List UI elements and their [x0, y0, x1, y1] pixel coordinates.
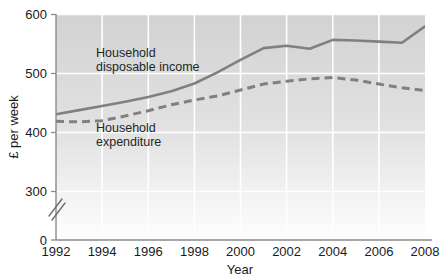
x-tick-label-2004: 2004 [318, 244, 347, 259]
chart-container: 600 500 400 300 0 1992 1994 1996 1998 20… [0, 0, 441, 278]
y-axis-ticks [51, 15, 56, 241]
annotation-income-line1: Household [96, 46, 156, 60]
x-tick-label-2002: 2002 [272, 244, 301, 259]
x-tick-label-2000: 2000 [226, 244, 255, 259]
y-tick-label-400: 400 [25, 125, 47, 140]
x-tick-label-2008: 2008 [411, 244, 440, 259]
y-tick-label-600: 600 [25, 7, 47, 22]
annotation-income-line2: disposable income [96, 60, 200, 74]
x-tick-label-1992: 1992 [42, 244, 71, 259]
x-tick-label-1996: 1996 [134, 244, 163, 259]
x-tick-label-1994: 1994 [88, 244, 117, 259]
y-tick-label-500: 500 [25, 66, 47, 81]
annotation-expenditure-line2: expenditure [96, 135, 161, 149]
y-axis-title: £ per week [6, 95, 21, 159]
x-axis-title: Year [227, 262, 254, 277]
annotation-expenditure-line1: Household [96, 121, 156, 135]
y-tick-label-300: 300 [25, 184, 47, 199]
x-tick-label-2006: 2006 [364, 244, 393, 259]
x-tick-label-1998: 1998 [180, 244, 209, 259]
line-chart: 600 500 400 300 0 1992 1994 1996 1998 20… [0, 0, 441, 278]
